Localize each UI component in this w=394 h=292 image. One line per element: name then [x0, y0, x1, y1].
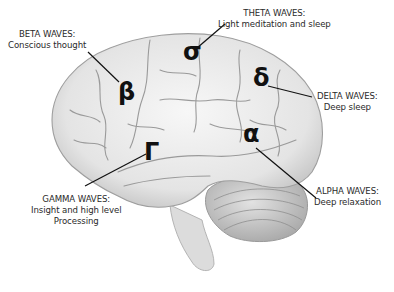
- alpha-label: ALPHA WAVES: Deep relaxation: [314, 186, 381, 208]
- delta-label: DELTA WAVES: Deep sleep: [317, 91, 378, 113]
- gamma-description-2: Processing: [31, 216, 121, 227]
- alpha-title: ALPHA WAVES:: [314, 186, 381, 197]
- beta-label: BETA WAVES: Conscious thought: [8, 29, 86, 51]
- beta-symbol: β: [118, 80, 135, 104]
- beta-title: BETA WAVES:: [8, 29, 86, 40]
- theta-label: THETA WAVES: Light meditation and sleep: [218, 8, 331, 30]
- theta-title: THETA WAVES:: [218, 8, 331, 19]
- theta-symbol: σ: [183, 40, 202, 64]
- theta-description: Light meditation and sleep: [218, 19, 331, 30]
- gamma-label: GAMMA WAVES: Insight and high level Proc…: [31, 194, 121, 227]
- brainstem: [170, 205, 214, 271]
- alpha-symbol: α: [243, 122, 260, 146]
- gamma-title: GAMMA WAVES:: [31, 194, 121, 205]
- delta-title: DELTA WAVES:: [317, 91, 378, 102]
- gamma-symbol: Γ: [144, 140, 159, 164]
- delta-symbol: δ: [253, 66, 270, 90]
- gamma-description-1: Insight and high level: [31, 205, 121, 216]
- delta-description: Deep sleep: [317, 102, 378, 113]
- beta-description: Conscious thought: [8, 40, 86, 51]
- alpha-description: Deep relaxation: [314, 197, 381, 208]
